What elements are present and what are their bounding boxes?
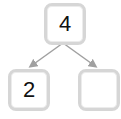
left-child-value: 2 (23, 77, 35, 103)
root-box: 4 (44, 3, 86, 45)
arrow-right (63, 43, 95, 66)
right-child-box[interactable] (78, 69, 120, 111)
arrow-left (31, 43, 63, 66)
root-value: 4 (59, 11, 71, 37)
left-child-box: 2 (8, 69, 50, 111)
